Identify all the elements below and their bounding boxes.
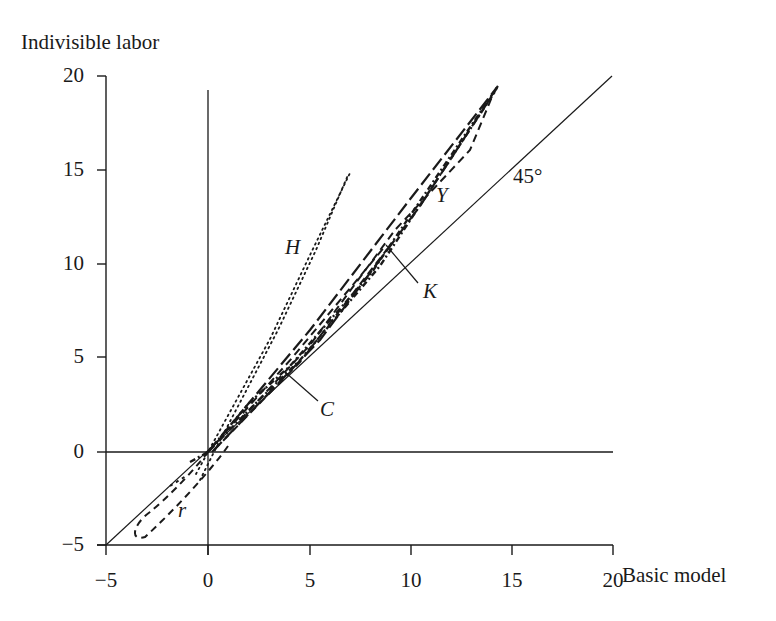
label-Y: Y bbox=[436, 183, 450, 207]
K-leader-line bbox=[386, 245, 418, 283]
label-r: r bbox=[178, 498, 187, 522]
chart-plot-area: 45° Y H K C r bbox=[0, 0, 776, 621]
label-K: K bbox=[422, 279, 438, 303]
axes-frame bbox=[97, 76, 613, 555]
45-degree-line bbox=[106, 76, 612, 545]
label-H: H bbox=[284, 235, 302, 259]
C-leader-line bbox=[285, 372, 318, 401]
series-H bbox=[196, 173, 350, 480]
series-r bbox=[135, 446, 228, 538]
label-C: C bbox=[320, 397, 335, 421]
series-Y bbox=[208, 86, 498, 452]
label-45-degree: 45° bbox=[513, 164, 542, 188]
series-C bbox=[190, 86, 498, 462]
